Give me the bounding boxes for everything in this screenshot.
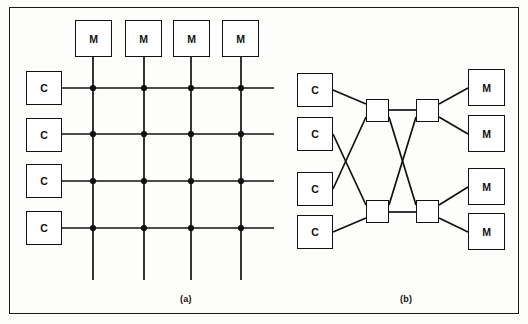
- panel-a-memory-box-2: M: [125, 20, 162, 57]
- panel-b-switch-stage2-bottom: [416, 200, 439, 223]
- panel-a-processor-box-1: C: [26, 71, 62, 105]
- panel-b-processor-box-1: C: [297, 73, 333, 107]
- panel-b-memory-box-1: M: [468, 69, 505, 106]
- panel-b-memory-box-4: M: [468, 213, 505, 250]
- panel-b-memory-box-3: M: [468, 168, 505, 205]
- panel-b-processor-box-3: C: [297, 172, 333, 206]
- panel-a-memory-box-1: M: [75, 20, 112, 57]
- panel-a-processor-box-2: C: [26, 118, 62, 152]
- panel-b-switch-stage1-top: [366, 99, 389, 122]
- panel-a-memory-box-3: M: [173, 20, 210, 57]
- panel-a-memory-box-4: M: [222, 20, 259, 57]
- panel-a-processor-box-3: C: [26, 164, 62, 198]
- panel-a-processor-box-4: C: [26, 211, 62, 245]
- figure-root: M M M M C C C C C C C C M M M M: [0, 0, 528, 324]
- panel-b-caption: (b): [400, 294, 412, 304]
- panel-b-memory-box-2: M: [468, 115, 505, 152]
- panel-b-switch-stage1-bottom: [366, 200, 389, 223]
- panel-a-caption: (a): [180, 294, 192, 304]
- panel-b-processor-box-4: C: [297, 215, 333, 249]
- panel-b-switch-stage2-top: [416, 99, 439, 122]
- panel-b-processor-box-2: C: [297, 117, 333, 151]
